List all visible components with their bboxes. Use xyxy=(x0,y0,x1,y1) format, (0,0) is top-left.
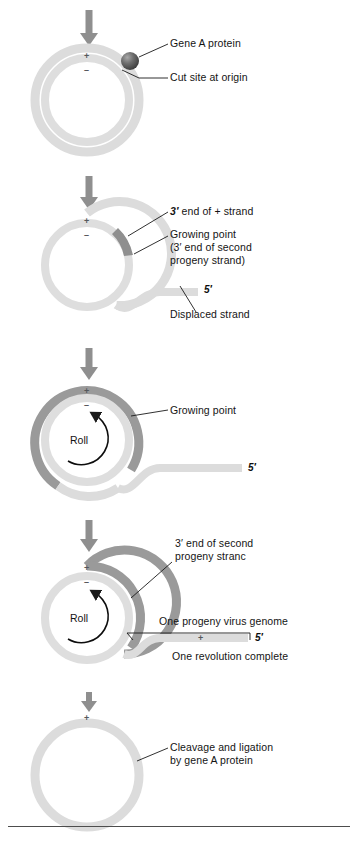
label-3prime-end-second-progeny-strand: 3′ end of second progeny stranc xyxy=(175,537,253,563)
stage5-plus-tick: + xyxy=(84,714,89,723)
stage-3-graphic xyxy=(35,348,242,497)
stage2-minus-tick: – xyxy=(84,231,89,240)
stage-1-graphic xyxy=(35,10,168,152)
leader-line-gene-a-protein xyxy=(139,44,168,57)
stage3-displaced-strand-tail xyxy=(118,468,242,489)
leader-line-3prime-second-progeny xyxy=(131,562,172,598)
stage4-five-prime-label: 5′ xyxy=(255,632,263,643)
label-cut-site-at-origin: Cut site at origin xyxy=(170,71,248,84)
bottom-divider xyxy=(8,826,350,827)
prime-prefix: 3′ xyxy=(170,205,179,217)
label-one-progeny-virus-genome: One progeny virus genome xyxy=(159,615,288,628)
arrow-4-icon xyxy=(80,520,98,552)
leader-line-growing-point xyxy=(134,236,168,254)
stage4-plus-tick: + xyxy=(84,564,89,573)
roll-label-stage-4: Roll xyxy=(70,612,88,624)
stage3-five-prime-label: 5′ xyxy=(248,462,256,473)
rolling-circle-replication-figure: + – Gene A protein Cut site at origin + … xyxy=(0,0,358,843)
diagram-canvas xyxy=(0,0,358,843)
stage2-displaced-strand-tail xyxy=(116,292,198,308)
stage4-minus-tick: – xyxy=(84,578,89,587)
stage1-minus-tick: – xyxy=(84,66,89,75)
stage3-plus-strand-light-arc xyxy=(58,486,118,497)
roll-label-stage-3: Roll xyxy=(70,434,88,446)
label-cleavage-and-ligation: Cleavage and ligation by gene A protein xyxy=(170,741,273,767)
stage1-plus-tick: + xyxy=(84,52,89,61)
stage5-circular-genome-ring xyxy=(35,723,139,827)
label-gene-a-protein: Gene A protein xyxy=(170,37,241,50)
stage3-minus-tick: – xyxy=(84,401,89,410)
label-growing-point-stage2: Growing point (3′ end of second progeny … xyxy=(170,228,252,267)
label-displaced-strand: Displaced strand xyxy=(170,308,250,321)
leader-line-cleavage-ligation xyxy=(137,748,168,761)
arrow-3-icon xyxy=(80,348,98,380)
stage4-strand-plus-tick: + xyxy=(198,634,203,643)
arrow-5-icon xyxy=(81,692,97,712)
label-one-revolution-complete: One revolution complete xyxy=(172,650,288,663)
arrow-1-icon xyxy=(80,10,98,46)
stage-5-graphic xyxy=(35,692,168,827)
gene-a-protein-ball xyxy=(121,52,139,70)
stage2-five-prime-label: 5′ xyxy=(204,284,212,295)
stage2-plus-tick: + xyxy=(84,217,89,226)
label-3prime-end-plus-strand: 3′ end of + strand xyxy=(170,205,253,218)
label-3prime-rest: end of + strand xyxy=(179,205,254,217)
label-growing-point-stage3: Growing point xyxy=(170,404,236,417)
stage3-plus-tick: + xyxy=(84,387,89,396)
leader-line-growing-point-stage3 xyxy=(131,410,168,416)
stage2-growing-point-wedge xyxy=(112,228,133,256)
